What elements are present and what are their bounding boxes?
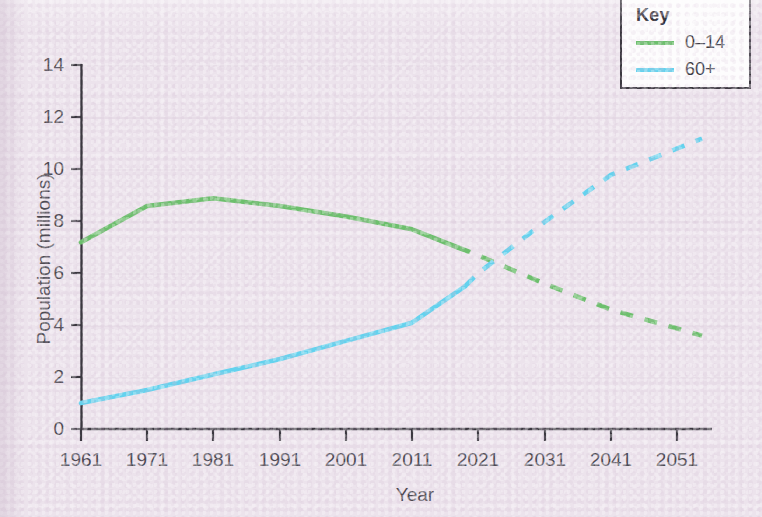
x-axis-title: Year: [315, 484, 515, 506]
x-tick-label: 1971: [126, 449, 168, 471]
legend-item-label: 60+: [685, 59, 716, 80]
x-tick-label: 2051: [656, 449, 698, 471]
legend-box: Key 0–14 60+: [620, 0, 751, 89]
x-tick-label: 1981: [192, 449, 234, 471]
legend-line-swatch-icon: [636, 41, 674, 45]
series-0-14-solid: [81, 198, 458, 247]
series-0-14: [81, 198, 702, 335]
x-tick-label: 2041: [590, 449, 632, 471]
paper-scan-bands: [82, 66, 740, 378]
chart-figure: 0 2 4 6 8 10 12 14 1961 1971 1981 1991 2…: [0, 0, 762, 517]
legend-item-label: 0–14: [685, 32, 725, 53]
legend-item-0-14: 0–14: [636, 29, 749, 56]
x-tick-label: 2001: [325, 449, 367, 471]
y-axis-title: Population (millions): [33, 129, 55, 389]
legend-title: Key: [636, 5, 749, 26]
y-tick-label: 12: [22, 106, 64, 128]
axis-lines: [80, 64, 712, 430]
y-tick-label: 0: [22, 418, 64, 440]
series-60-plus: [81, 139, 702, 404]
x-tick-label: 2031: [524, 449, 566, 471]
x-tick-label: 1961: [60, 449, 102, 471]
series-60-plus-projected-dashed: [465, 139, 702, 287]
series-60-plus-solid: [81, 286, 465, 403]
x-axis-ticks: [81, 429, 677, 441]
legend-item-60-plus: 60+: [636, 56, 749, 83]
y-tick-label: 14: [22, 54, 64, 76]
legend-line-swatch-icon: [636, 68, 674, 72]
x-tick-label: 1991: [259, 449, 301, 471]
x-tick-label: 2021: [457, 449, 499, 471]
series-0-14-projected-dashed: [458, 248, 702, 336]
x-tick-label: 2011: [392, 449, 433, 471]
